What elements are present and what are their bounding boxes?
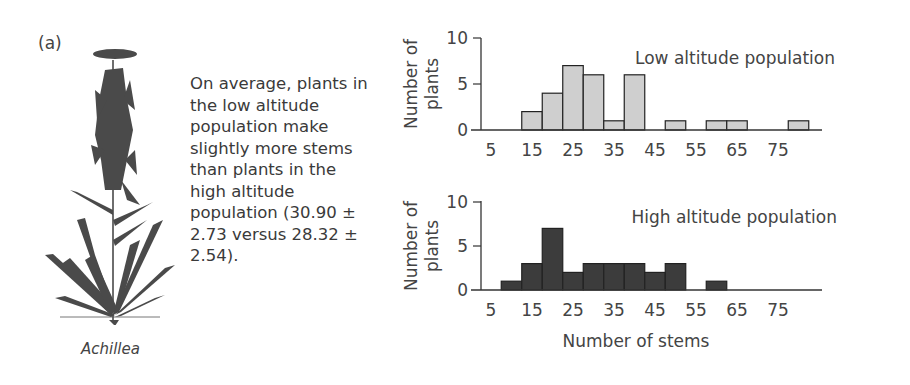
x-tick-label: 65 <box>726 300 748 320</box>
histogram-bar <box>604 264 625 290</box>
low-altitude-histogram: 0510 515253545556575 Low altitude popula… <box>401 28 835 160</box>
histogram-bar <box>727 121 748 130</box>
high-altitude-histogram: 0510 515253545556575 High altitude popul… <box>401 192 837 351</box>
x-tick-label: 75 <box>767 140 789 160</box>
y-tick-label: 0 <box>457 280 468 300</box>
y-ticks: 0510 <box>446 28 481 140</box>
y-tick-label: 0 <box>457 120 468 140</box>
y-axis-label-line2: plants <box>422 58 442 110</box>
histogram-bar <box>542 93 563 130</box>
y-axis-label-line2: plants <box>422 220 442 272</box>
histogram-bar <box>706 121 727 130</box>
x-tick-label: 45 <box>644 300 666 320</box>
achillea-plant-illustration <box>35 40 185 325</box>
x-tick-label: 55 <box>685 140 707 160</box>
histogram-bar <box>624 264 645 290</box>
x-tick-label: 15 <box>521 140 543 160</box>
x-tick-label: 25 <box>562 300 584 320</box>
y-ticks: 0510 <box>446 192 481 300</box>
histogram-bar <box>522 264 543 290</box>
histogram-bar <box>624 75 645 130</box>
histogram-bar <box>706 281 727 290</box>
x-tick-label: 45 <box>644 140 666 160</box>
histogram-bar <box>522 112 543 130</box>
x-tick-labels: 515253545556575 <box>486 140 789 160</box>
histogram-bar <box>542 228 563 290</box>
histogram-bar <box>563 272 584 290</box>
y-tick-label: 10 <box>446 28 468 48</box>
x-tick-label: 35 <box>603 140 625 160</box>
x-tick-label: 65 <box>726 140 748 160</box>
x-axis-label: Number of stems <box>563 331 710 351</box>
x-tick-labels: 515253545556575 <box>486 300 789 320</box>
histogram-bar <box>788 121 809 130</box>
low-altitude-bars <box>522 66 809 130</box>
histogram-bar <box>501 281 522 290</box>
figure-caption: On average, plants in the low altitude p… <box>190 73 375 267</box>
x-tick-label: 5 <box>486 140 497 160</box>
histogram-bar <box>645 272 666 290</box>
y-tick-label: 5 <box>457 74 468 94</box>
chart-title: Low altitude population <box>635 48 835 68</box>
x-tick-label: 75 <box>767 300 789 320</box>
y-tick-label: 10 <box>446 192 468 212</box>
histogram-bar <box>583 264 604 290</box>
y-axis-label-line1: Number of <box>401 200 421 291</box>
histogram-bar <box>583 75 604 130</box>
histogram-bar <box>563 66 584 130</box>
high-altitude-bars <box>501 228 727 290</box>
x-tick-label: 25 <box>562 140 584 160</box>
x-tick-label: 55 <box>685 300 707 320</box>
x-tick-label: 35 <box>603 300 625 320</box>
x-tick-label: 5 <box>486 300 497 320</box>
histogram-bar <box>665 264 686 290</box>
y-tick-label: 5 <box>457 236 468 256</box>
y-axis-label-line1: Number of <box>401 38 421 129</box>
species-label: Achillea <box>81 340 140 358</box>
chart-title: High altitude population <box>631 207 837 227</box>
histogram-bar <box>604 121 625 130</box>
histogram-bar <box>665 121 686 130</box>
histogram-charts: 0510 515253545556575 Low altitude popula… <box>380 20 910 385</box>
x-tick-label: 15 <box>521 300 543 320</box>
